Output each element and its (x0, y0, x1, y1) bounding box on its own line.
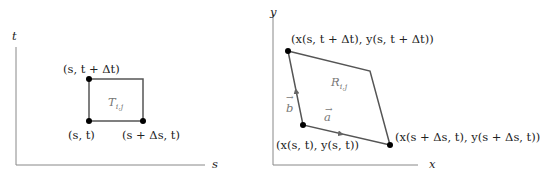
label-sds-t: (s + Δs, t) (122, 128, 180, 142)
vector-a-arrow-glyph: → (325, 104, 333, 114)
point-bottom-right (387, 142, 393, 148)
y-axis-label: y (269, 5, 277, 19)
point-s-tdt (86, 76, 92, 82)
label-top-left: (x(s, t + Δt), y(s, t + Δt)) (291, 32, 434, 46)
point-s-t (86, 118, 92, 124)
vector-b-arrow-glyph: → (286, 92, 294, 102)
left-diagram: t s Ti,j (s, t + Δt) (s, t) (s + Δs, t) (12, 29, 218, 171)
right-diagram: y x Ri,j a → b → (x(s, t + Δt), y(s, t +… (269, 5, 540, 171)
label-s-tdt: (s, t + Δt) (63, 62, 120, 76)
label-bottom-right: (x(s + Δs, t), y(s + Δs, t)) (395, 130, 540, 144)
region-label-R: Ri,j (330, 75, 348, 91)
diagram-canvas: t s Ti,j (s, t + Δt) (s, t) (s + Δs, t) … (0, 0, 546, 176)
point-top-left (285, 48, 291, 54)
point-bottom-left (300, 122, 306, 128)
vector-b-label: b (286, 101, 293, 115)
label-bottom-left: (x(s, t), y(s, t)) (276, 138, 359, 152)
s-axis-label: s (212, 157, 218, 171)
rectangle-T (89, 79, 143, 121)
label-s-t: (s, t) (68, 128, 95, 142)
parallelogram-R (288, 51, 390, 145)
region-label-T: Ti,j (108, 95, 124, 111)
t-axis-label: t (12, 29, 17, 43)
point-sds-t (140, 118, 146, 124)
x-axis-label: x (429, 157, 436, 171)
